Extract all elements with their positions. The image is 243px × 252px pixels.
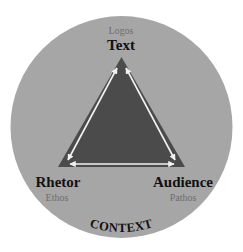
label-pathos: Pathos: [170, 192, 197, 203]
label-rhetor: Rhetor: [36, 174, 81, 190]
label-logos: Logos: [109, 25, 134, 36]
rhetorical-triangle-diagram: Logos Text Rhetor Ethos Audience Pathos …: [0, 0, 243, 252]
label-audience: Audience: [153, 174, 213, 190]
label-ethos: Ethos: [46, 192, 69, 203]
label-text: Text: [107, 37, 135, 53]
